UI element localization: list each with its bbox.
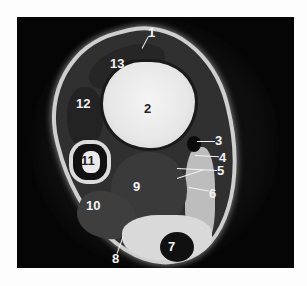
pointer-line-3 bbox=[197, 141, 215, 142]
label-1: 1 bbox=[148, 26, 155, 39]
label-8: 8 bbox=[112, 252, 119, 265]
label-11: 11 bbox=[81, 154, 95, 167]
label-13: 13 bbox=[110, 57, 124, 70]
label-5: 5 bbox=[217, 164, 224, 177]
label-2: 2 bbox=[144, 102, 151, 115]
label-12: 12 bbox=[76, 97, 90, 110]
mri-image-panel: 1 2 3 4 5 6 7 8 9 10 11 12 13 bbox=[17, 17, 294, 268]
label-10: 10 bbox=[86, 199, 100, 212]
label-7: 7 bbox=[168, 240, 175, 253]
label-3: 3 bbox=[215, 134, 222, 147]
label-6: 6 bbox=[209, 187, 216, 200]
label-9: 9 bbox=[133, 180, 140, 193]
structure-7 bbox=[160, 232, 194, 262]
structure-3 bbox=[187, 136, 201, 152]
